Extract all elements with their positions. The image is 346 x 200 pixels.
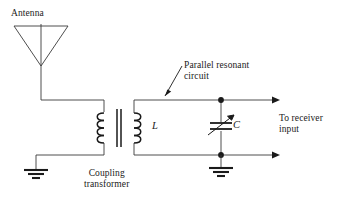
secondary-bottom-wire — [134, 143, 272, 155]
primary-ground-lead — [36, 143, 104, 170]
output-top-arrow — [272, 97, 280, 104]
antenna-symbol — [14, 24, 68, 66]
transformer-secondary-coil — [134, 113, 141, 143]
transformer-primary-coil — [97, 113, 104, 143]
ground-right-icon — [209, 168, 233, 176]
output-bottom-arrow — [272, 152, 280, 159]
capacitor-label: C — [233, 119, 240, 130]
to-receiver-input-label: To receiver input — [279, 113, 323, 135]
circuit-diagram-canvas: Antenna Parallel resonant circuit L C To… — [0, 0, 346, 200]
inductor-label: L — [152, 120, 158, 131]
parallel-resonant-leader-line — [165, 66, 182, 96]
ground-left-icon — [24, 170, 48, 178]
secondary-top-wire — [134, 100, 272, 113]
antenna-lead-wire — [41, 66, 104, 112]
parallel-resonant-circuit-label: Parallel resonant circuit — [184, 60, 249, 82]
transformer-core — [117, 109, 121, 147]
antenna-label: Antenna — [11, 8, 44, 19]
schematic-drawing — [0, 0, 346, 200]
coupling-transformer-label: Coupling transformer — [84, 168, 129, 190]
junction-dot-top — [218, 97, 224, 103]
